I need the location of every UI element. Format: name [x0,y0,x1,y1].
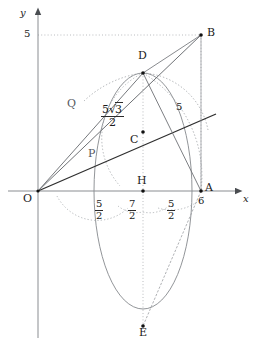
point-label-O: O [23,193,32,204]
segment-label-OD-coefficient: 5 [102,103,109,116]
segment-label-AB: 5 [176,102,182,112]
point-marker-H [141,189,145,193]
arc-lower-left-dotted [57,196,128,220]
baseline-label-HA-denominator: 2 [167,211,175,222]
figure-canvas [0,0,265,346]
baseline-label-HA-numerator: 5 [167,199,175,211]
point-label-E: E [139,327,147,338]
segment-label-OD: 5√3 2 [101,104,124,128]
geometry-figure: y x O 5 6 A B C D E H P Q 5 5√3 2 5 2 7 … [0,0,265,346]
baseline-label-7over2-numerator: 7 [128,199,136,211]
arc-lower-center-right-dotted [143,205,170,213]
line-OD [38,73,143,191]
baseline-label-7over2-denominator: 2 [128,211,136,222]
point-marker-D [141,71,145,75]
point-label-C: C [130,134,138,145]
baseline-label-OH-numerator: 5 [95,199,103,211]
baseline-label-OH-denominator: 2 [95,211,103,222]
segment-label-OD-denominator: 2 [101,117,124,129]
baseline-label-OH-total: 7 2 [128,199,136,221]
line-DB [143,35,201,73]
point-label-B: B [207,27,215,38]
y-tick-label-5: 5 [24,29,30,39]
point-label-D: D [138,50,147,61]
point-label-P: P [88,148,95,159]
point-label-H: H [137,175,147,186]
point-marker-A [199,189,203,193]
baseline-label-HA: 5 2 [167,199,175,221]
arc-D-to-H-dotted [102,73,143,186]
point-label-Q: Q [67,98,76,109]
point-marker-B [199,33,203,37]
point-label-A: A [205,182,213,193]
point-marker-C [141,130,145,134]
line-DA [143,73,201,191]
point-marker-O [36,189,39,192]
x-axis-label: x [243,194,249,204]
y-axis-label: y [20,8,26,18]
segment-label-OD-radicand: 3 [115,102,123,116]
radical-icon: √3 [109,104,123,116]
baseline-label-OH: 5 2 [95,199,103,221]
x-tick-label-6: 6 [198,196,204,206]
